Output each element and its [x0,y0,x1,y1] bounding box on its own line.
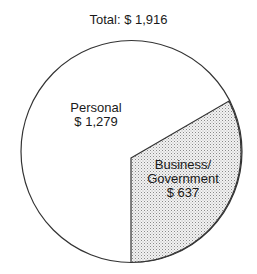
label-personal: Personal $ 1,279 [56,101,136,129]
label-personal-value: $ 1,279 [56,115,136,129]
label-business: Business/ Government $ 637 [138,158,228,200]
pie-chart [0,0,257,274]
label-business-name-1: Business/ [138,158,228,172]
label-business-name-2: Government [138,172,228,186]
label-personal-name: Personal [56,101,136,115]
chart-title: Total: $ 1,916 [0,12,257,27]
label-business-value: $ 637 [138,186,228,200]
